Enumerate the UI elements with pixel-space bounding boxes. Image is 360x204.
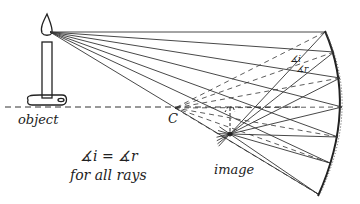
normal-line	[175, 78, 340, 108]
angle-i-label: ∡i	[290, 54, 301, 64]
object-label: object	[18, 112, 59, 127]
concave-mirror	[318, 31, 342, 196]
reflected-ray	[218, 52, 334, 144]
reflected-ray	[217, 107, 342, 137]
angle-r-label: ∡r	[296, 64, 309, 74]
law-label-line2: for all rays	[69, 167, 147, 183]
reflected-ray	[219, 127, 318, 194]
candle-object	[28, 14, 67, 105]
incident-ray	[50, 32, 334, 52]
normal-line	[175, 52, 334, 108]
candle-holder	[28, 95, 67, 105]
candle-body	[42, 42, 52, 98]
diagram-canvas: object C image ∡i ∡r ∡i = ∡r for all ray…	[0, 0, 360, 204]
incident-ray	[50, 32, 338, 137]
incident-ray	[50, 32, 330, 163]
law-label-line1: ∡i = ∡r	[80, 148, 139, 164]
image-label: image	[214, 162, 255, 177]
center-of-curvature-label: C	[168, 111, 178, 126]
